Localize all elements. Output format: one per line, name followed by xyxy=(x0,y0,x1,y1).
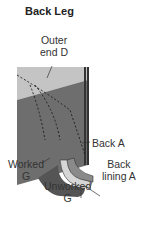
label-outer-end-d: Outer end D xyxy=(40,34,68,58)
label-back-lining-a: Back lining A xyxy=(102,158,136,182)
label-worked-g: Worked G xyxy=(8,158,44,182)
label-back-a: Back A xyxy=(92,137,125,149)
label-unworked-g: Unworked G xyxy=(44,180,91,204)
